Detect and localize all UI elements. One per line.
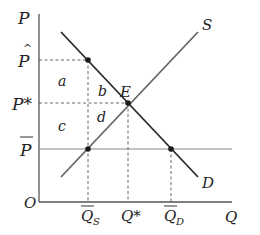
supply-label: S (202, 16, 212, 34)
point-p-hat-qs (85, 57, 91, 63)
area-d-label: d (97, 109, 106, 125)
point-pbar-qd (168, 146, 174, 152)
qs-subscript: S (93, 216, 100, 227)
point-pbar-qs (85, 146, 91, 152)
origin-label: O (24, 194, 36, 212)
p-bar-label: P (19, 140, 32, 160)
q-star-label: Q* (121, 207, 141, 225)
area-b-label: b (98, 83, 107, 99)
p-hat-label: P (17, 51, 30, 71)
p-star-label: P* (11, 94, 32, 114)
qd-label: Q (164, 207, 176, 225)
x-axis-label: Q (225, 208, 237, 226)
point-equilibrium (125, 100, 131, 106)
equilibrium-label: E (119, 83, 131, 101)
area-a-label: a (58, 73, 66, 89)
qs-label: Q (81, 207, 93, 225)
supply-demand-diagram: P Q O S D ^ P P* P E a b c d Q S Q* Q D (0, 0, 260, 235)
demand-label: D (201, 174, 214, 192)
qd-subscript: D (175, 216, 184, 227)
area-c-label: c (58, 118, 66, 134)
y-axis-label: P (17, 8, 30, 28)
